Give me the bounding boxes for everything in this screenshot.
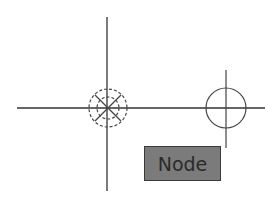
crosshair-cursor-icon (0, 0, 278, 200)
snap-tooltip-label: Node (158, 153, 208, 175)
cad-drawing-canvas[interactable]: Node (0, 0, 278, 200)
snap-tooltip: Node (144, 146, 221, 181)
point-node-icon (206, 70, 246, 148)
